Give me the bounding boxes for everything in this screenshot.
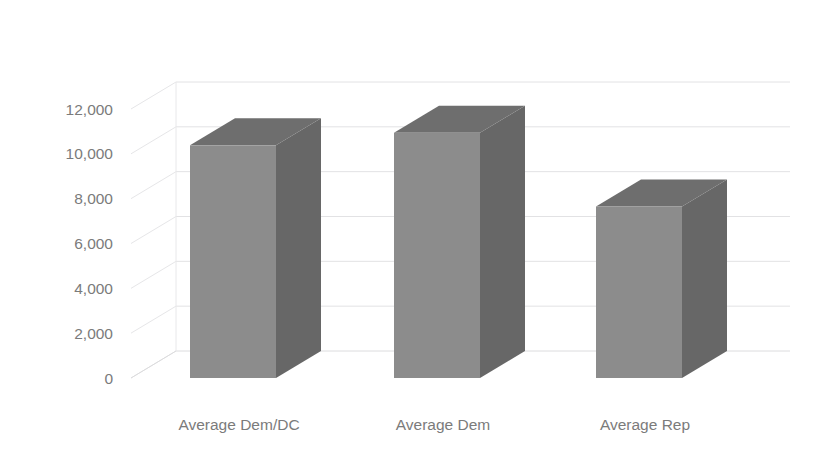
y-axis-tick-label: 10,000 [66,145,114,162]
bar-front-face [596,207,682,378]
x-axis-category-label: Average Dem/DC [178,416,299,433]
y-axis-tick-label: 0 [104,370,113,387]
bar-side-face [276,118,321,378]
bar-column[interactable] [596,180,727,378]
y-axis-tick-label: 2,000 [74,325,113,342]
chart-container: 12,00010,0008,0006,0004,0002,0000 Averag… [0,0,819,464]
y-axis-tick-label: 12,000 [66,101,114,118]
bar-column[interactable] [190,118,321,378]
x-axis-category-label: Average Dem [396,416,490,433]
bar-side-face [480,106,525,378]
bar-front-face [394,133,480,378]
three-d-bar-chart: 12,00010,0008,0006,0004,0002,0000 Averag… [0,0,819,464]
x-axis-category-labels: Average Dem/DCAverage DemAverage Rep [178,416,690,433]
bar-side-face [682,180,727,378]
bar-front-face [190,145,276,378]
y-axis-tick-label: 6,000 [74,235,113,252]
y-axis-tick-label: 4,000 [74,280,113,297]
y-axis-tick-label: 8,000 [74,190,113,207]
x-axis-category-label: Average Rep [600,416,690,433]
bar-column[interactable] [394,106,525,378]
